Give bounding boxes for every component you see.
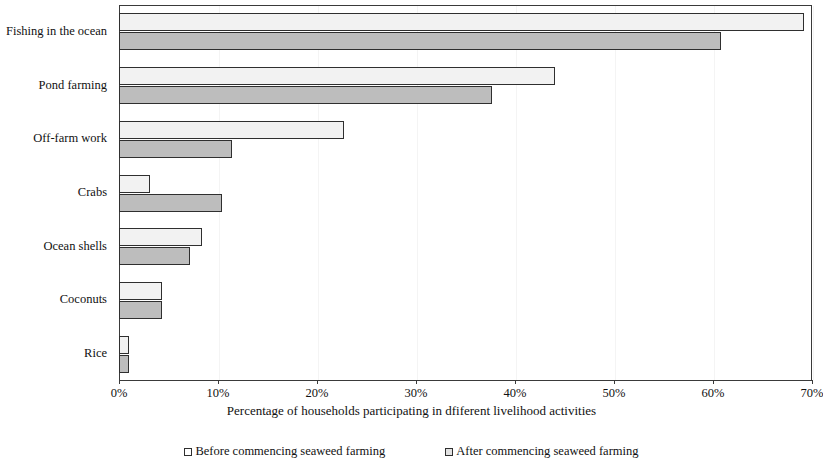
gridline (615, 6, 616, 380)
category-label: Off-farm work (33, 132, 107, 145)
x-tick-label: 40% (504, 386, 527, 401)
legend-swatch-after (445, 448, 453, 456)
x-tick-label: 20% (306, 386, 329, 401)
legend-label: After commencing seaweed farming (456, 444, 638, 459)
x-tick-mark (713, 380, 714, 384)
x-tick-mark (119, 380, 120, 384)
bar-chart-figure: Fishing in the oceanPond farmingOff-farm… (0, 0, 823, 463)
gridline (219, 6, 220, 380)
plot-area (119, 5, 812, 381)
x-tick-mark (614, 380, 615, 384)
category-label: Pond farming (39, 79, 107, 92)
x-tick-label: 50% (603, 386, 626, 401)
gridline (813, 6, 814, 380)
x-tick-label: 10% (207, 386, 230, 401)
category-label: Coconuts (60, 293, 107, 306)
x-tick-label: 30% (405, 386, 428, 401)
gridline (417, 6, 418, 380)
gridline (714, 6, 715, 380)
category-label: Ocean shells (43, 240, 107, 253)
x-tick-mark (812, 380, 813, 384)
category-label: Fishing in the ocean (6, 25, 107, 38)
x-axis-ticks: 0%10%20%30%40%50%60%70% (0, 384, 823, 402)
legend-label: Before commencing seaweed farming (195, 444, 385, 459)
legend-item[interactable]: After commencing seaweed farming (445, 444, 638, 459)
x-tick-mark (515, 380, 516, 384)
x-axis-title: Percentage of households participating i… (0, 403, 823, 419)
x-tick-mark (218, 380, 219, 384)
x-tick-label: 60% (702, 386, 725, 401)
gridline (318, 6, 319, 380)
legend-swatch-before (184, 448, 192, 456)
gridline (516, 6, 517, 380)
x-tick-mark (416, 380, 417, 384)
y-axis-category-labels: Fishing in the oceanPond farmingOff-farm… (0, 5, 113, 381)
x-tick-mark (317, 380, 318, 384)
category-label: Crabs (78, 186, 107, 199)
x-tick-label: 70% (801, 386, 823, 401)
category-label: Rice (84, 347, 107, 360)
legend-item[interactable]: Before commencing seaweed farming (184, 444, 385, 459)
chart-legend: Before commencing seaweed farmingAfter c… (0, 444, 823, 459)
x-tick-label: 0% (111, 386, 128, 401)
